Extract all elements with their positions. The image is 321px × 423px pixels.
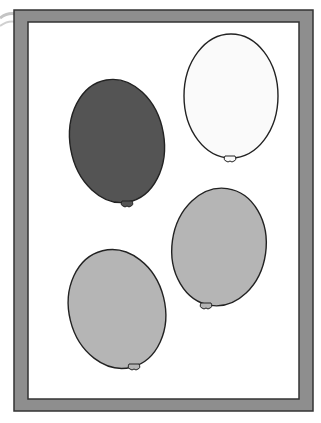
balloon-knot (200, 303, 212, 309)
balloon-worksheet (0, 0, 321, 423)
balloon-knot (121, 201, 133, 207)
balloon-knot (224, 156, 236, 162)
balloon-knot (128, 364, 140, 370)
